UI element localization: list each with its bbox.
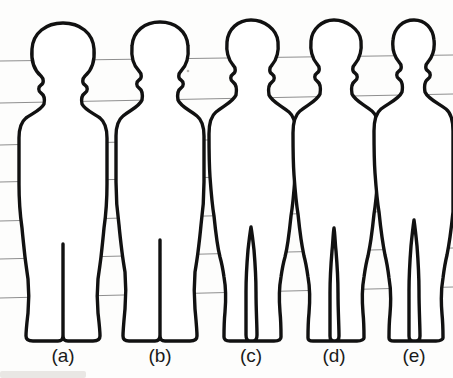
body-proportion-figure: (a)(b)(c)(d)(e) (0, 0, 453, 378)
figure-label-b: (b) (148, 345, 171, 366)
figure-label-d: (d) (322, 345, 345, 366)
figure-label-e: (e) (402, 345, 425, 366)
figure-label-a: (a) (51, 345, 74, 366)
figure-label-c: (c) (240, 345, 262, 366)
figure-canvas: (a)(b)(c)(d)(e) (0, 0, 453, 378)
